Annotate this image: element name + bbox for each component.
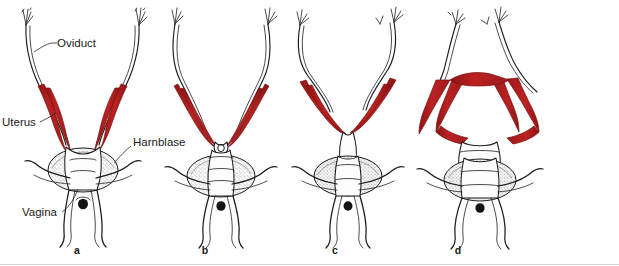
label-vagina: Vagina [22,206,58,218]
label-harnblase: Harnblase [133,136,185,148]
urogenital-opening-c [344,201,353,210]
panel-letter-b: b [202,244,208,256]
panel-letter-c: c [332,244,338,256]
panel-letter-a: a [74,244,80,256]
vagina-tract-d [461,158,499,198]
urogenital-opening-a [78,199,88,209]
urogenital-opening-d [475,203,484,213]
label-oviduct: Oviduct [57,37,97,49]
panel-letter-d: d [455,244,461,256]
uterus-fusion-figure: a [0,0,619,266]
label-uterus: Uterus [2,116,36,128]
urogenital-opening-b [216,201,225,211]
vagina-tract-c [335,156,361,196]
